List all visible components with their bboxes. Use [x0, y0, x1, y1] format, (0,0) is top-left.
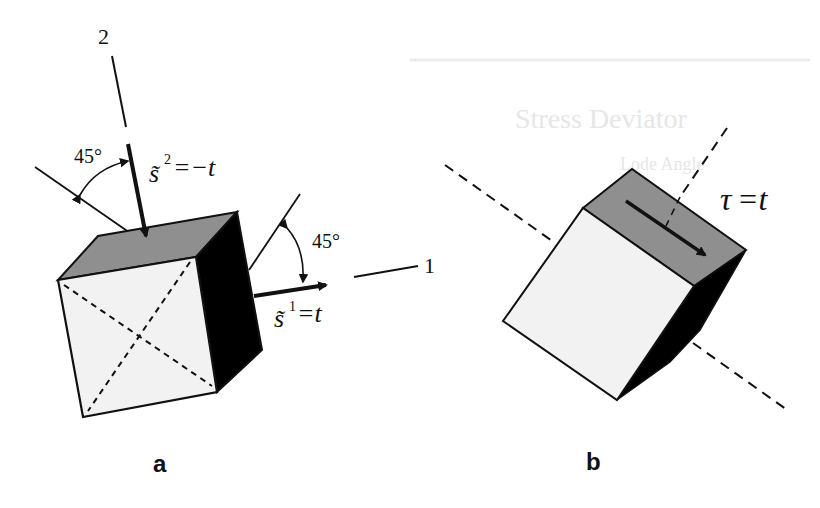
axis-2-line — [112, 56, 126, 127]
bleed-through-text: Stress Deviator Lode Angle — [410, 60, 810, 174]
stress-2-superscript: 2 — [164, 152, 171, 167]
stress-1-rhs: =t — [297, 299, 323, 328]
cube-a — [58, 212, 262, 417]
axis-2-label: 2 — [98, 24, 109, 49]
panel-b-label: b — [586, 448, 601, 475]
stress-2-label: s̃ 2 =−t — [149, 152, 216, 188]
shear-symbol: τ — [720, 181, 733, 217]
ghost-heading: Stress Deviator — [515, 103, 688, 134]
dashed-axis-right — [693, 343, 790, 412]
stress-1-label: s̃ 1 =t — [274, 299, 323, 333]
shear-rhs: =t — [737, 181, 769, 217]
stress-state-figure: Stress Deviator Lode Angle 2 45° s̃ 2 =−… — [0, 0, 820, 508]
angle-left-label: 45° — [74, 145, 102, 167]
dashed-axis-left — [445, 165, 555, 243]
panel-a: 2 45° s̃ 2 =−t 1 45° — [35, 24, 435, 477]
stress-1-arrow — [254, 285, 326, 296]
stress-1-superscript: 1 — [289, 299, 296, 314]
stress-1-symbol: s̃ — [274, 304, 286, 333]
shear-label: τ =t — [720, 181, 769, 217]
stress-2-arrow — [128, 144, 146, 236]
angle-arc-right — [287, 228, 303, 282]
axis-1-label: 1 — [424, 253, 435, 278]
stress-2-rhs: =−t — [173, 153, 216, 182]
stress-2-symbol: s̃ — [149, 159, 161, 188]
angle-right-label: 45° — [312, 230, 340, 252]
panel-a-label: a — [153, 450, 167, 477]
reference-line-right — [249, 194, 300, 270]
panel-b: τ =t b — [445, 128, 790, 475]
cube-b — [503, 169, 746, 400]
axis-1-line — [354, 266, 418, 277]
